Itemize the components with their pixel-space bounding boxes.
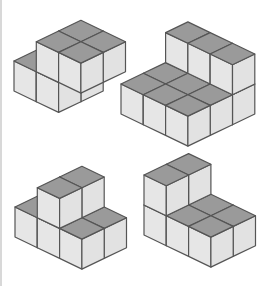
cube [166, 95, 211, 146]
cube [59, 42, 104, 93]
cube-diagram-canvas [0, 0, 271, 286]
cube [37, 177, 82, 228]
figure-bottom-left [15, 166, 127, 269]
cube [210, 43, 255, 94]
figure-top-left [14, 20, 126, 112]
cube [144, 164, 189, 215]
figure-bottom-right [144, 154, 256, 268]
figure-top-right [121, 22, 255, 146]
cube [189, 216, 234, 267]
